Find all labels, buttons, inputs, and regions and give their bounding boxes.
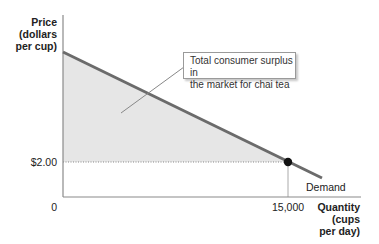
origin-label: 0 xyxy=(0,201,57,213)
consumer-surplus-callout: Total consumer surplus in the market for… xyxy=(183,52,296,79)
x-axis-title-line2: (cups xyxy=(300,213,360,225)
equilibrium-point xyxy=(284,158,292,166)
y-axis-title-line1: Price xyxy=(0,16,57,28)
demand-label: Demand xyxy=(306,181,346,193)
price-tick-label: $2.00 xyxy=(0,156,57,168)
callout-text-line1: Total consumer surplus in xyxy=(190,55,295,79)
y-axis-title: Price (dollars per cup) xyxy=(0,16,57,52)
x-axis-title-line3: per day) xyxy=(300,225,360,237)
y-axis-title-line3: per cup) xyxy=(0,40,57,52)
callout-text-line2: the market for chai tea xyxy=(190,79,295,91)
x-axis-title: Quantity (cups per day) xyxy=(300,201,360,237)
y-axis-title-line2: (dollars xyxy=(0,28,57,40)
x-axis-title-line1: Quantity xyxy=(300,201,360,213)
